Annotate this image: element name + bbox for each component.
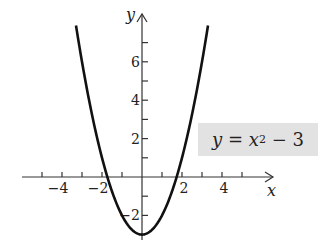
equation-x: x — [249, 129, 259, 150]
equation-label-box: y = x2 − 3 — [198, 123, 318, 156]
y-tick-label: 4 — [131, 92, 140, 108]
x-tick-label: −2 — [88, 180, 109, 196]
parabola-chart: −4−224−2246xy — [0, 0, 332, 244]
equation-y: y — [212, 129, 222, 150]
equation-equals: = — [222, 129, 249, 150]
x-axis-label: x — [267, 181, 276, 200]
x-tick-label: −4 — [48, 180, 69, 196]
y-tick-label: 2 — [131, 131, 140, 147]
equation-exponent: 2 — [259, 133, 266, 146]
x-tick-label: 4 — [220, 180, 229, 196]
y-tick-label: 6 — [131, 54, 140, 70]
equation-rest: − 3 — [266, 129, 304, 150]
x-tick-label: 2 — [180, 180, 189, 196]
y-axis-label: y — [125, 5, 136, 24]
